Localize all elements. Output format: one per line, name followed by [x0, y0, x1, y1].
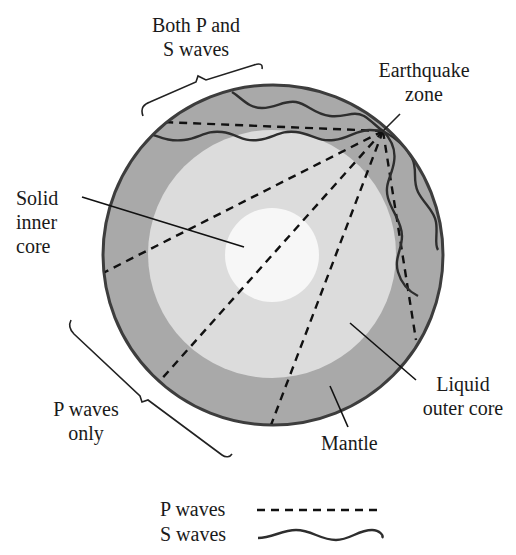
earthquake-zone-label: Earthquake zone — [364, 58, 484, 106]
both-waves-label-line1: Both P and — [116, 13, 276, 37]
legend-s-waves-label: S waves — [160, 522, 226, 546]
liquid-outer-core-label-line1: Liquid — [408, 372, 516, 396]
p-waves-only-label-line2: only — [36, 421, 136, 445]
solid-inner-core-label: Solid inner core — [16, 186, 58, 258]
mantle-label: Mantle — [321, 431, 378, 455]
legend-s-wave-symbol — [258, 530, 383, 540]
inner-core-layer — [225, 208, 319, 302]
earthquake-zone-label-line1: Earthquake — [364, 58, 484, 82]
solid-inner-core-label-line2: inner — [16, 210, 58, 234]
liquid-outer-core-label-line2: outer core — [408, 396, 516, 420]
solid-inner-core-label-line1: Solid — [16, 186, 58, 210]
both-waves-label: Both P and S waves — [116, 13, 276, 61]
legend-p-waves-label: P waves — [160, 497, 225, 521]
earthquake-pointer — [383, 114, 400, 131]
earthquake-zone-label-line2: zone — [364, 82, 484, 106]
both-waves-label-line2: S waves — [116, 37, 276, 61]
p-waves-only-label: P waves only — [36, 397, 136, 445]
solid-inner-core-label-line3: core — [16, 234, 58, 258]
p-waves-only-label-line1: P waves — [36, 397, 136, 421]
liquid-outer-core-label: Liquid outer core — [408, 372, 516, 420]
